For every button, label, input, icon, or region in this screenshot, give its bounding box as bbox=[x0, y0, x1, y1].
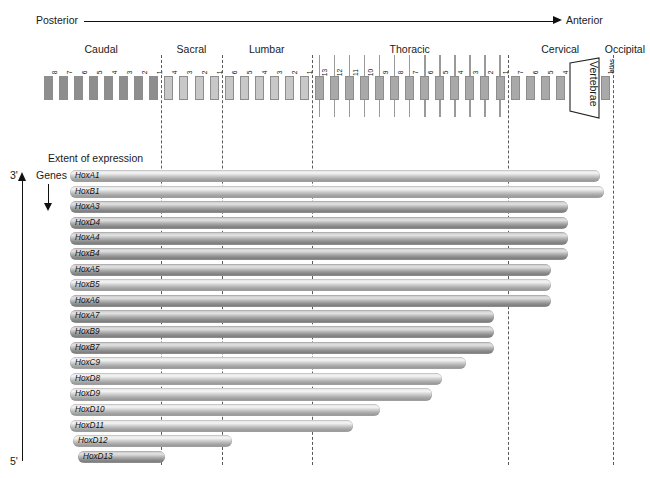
vertebra-box-thoracic-3: 3 bbox=[465, 76, 474, 100]
vertebra-number: 2 bbox=[486, 61, 495, 85]
vertebrae-bracket-label: Vertebrae bbox=[588, 61, 600, 107]
expression-bar-HoxC9 bbox=[70, 357, 466, 369]
vertebra-box-thoracic-6: 6 bbox=[420, 76, 429, 100]
extent-of-expression-label: Extent of expression bbox=[48, 152, 143, 164]
vertebra-box-sacral-3: 3 bbox=[179, 76, 188, 100]
gene-name-label: HoxA3 bbox=[75, 201, 100, 213]
vertebra-number: 9 bbox=[381, 61, 390, 85]
region-label-occipital: Occipital bbox=[576, 43, 650, 55]
gene-name-label: HoxD4 bbox=[75, 217, 100, 229]
vertebra-box-caudal-6: 6 bbox=[74, 76, 83, 100]
vertebra-number: 3 bbox=[275, 61, 284, 85]
vertebra-number: 5 bbox=[245, 61, 254, 85]
vertebra-box-cervical-5: 5 bbox=[541, 76, 550, 100]
expression-bar-HoxB1 bbox=[70, 186, 604, 198]
gene-name-label: HoxA7 bbox=[75, 310, 100, 322]
vertebra-number: 2 bbox=[200, 61, 209, 85]
vertebra-box-caudal-8: 8 bbox=[44, 76, 53, 100]
vertebra-box-caudal-3: 3 bbox=[119, 76, 128, 100]
expression-bar-HoxD11 bbox=[70, 420, 353, 432]
vertebra-number: 7 bbox=[516, 61, 525, 85]
gene-name-label: HoxC9 bbox=[75, 357, 100, 369]
vertebra-number: 1 bbox=[215, 61, 224, 85]
vertebra-number: 6 bbox=[80, 61, 89, 85]
vertebra-number: 12 bbox=[335, 61, 344, 85]
vertebra-box-lumbar-2: 2 bbox=[285, 76, 294, 100]
vertebra-box-lumbar-3: 3 bbox=[270, 76, 279, 100]
expression-bar-HoxB9 bbox=[70, 326, 494, 338]
vertebra-box-thoracic-4: 4 bbox=[450, 76, 459, 100]
vertebra-number: 7 bbox=[411, 61, 420, 85]
vertebra-box-caudal-1: 1 bbox=[149, 76, 158, 100]
gene-name-label: HoxD11 bbox=[75, 420, 104, 432]
expression-bar-HoxB7 bbox=[70, 342, 494, 354]
vertebra-box-thoracic-12: 12 bbox=[330, 76, 339, 100]
gene-name-label: HoxD10 bbox=[75, 404, 105, 416]
vertebra-box-thoracic-1: 1 bbox=[496, 76, 505, 100]
expression-bar-HoxD10 bbox=[70, 404, 380, 416]
vertebra-number: 11 bbox=[351, 61, 360, 85]
vertebra-number: 13 bbox=[320, 61, 329, 85]
vertebra-number: 3 bbox=[471, 61, 480, 85]
vertebra-number: 8 bbox=[396, 61, 405, 85]
vertebra-box-lumbar-1: 1 bbox=[300, 76, 309, 100]
anterior-label: Anterior bbox=[566, 14, 603, 26]
vertebra-box-caudal-5: 5 bbox=[89, 76, 98, 100]
gene-name-label: HoxD13 bbox=[83, 451, 113, 463]
vertebra-box-cervical-4: 4 bbox=[556, 76, 565, 100]
vertebra-box-caudal-4: 4 bbox=[104, 76, 113, 100]
expression-bar-HoxA1 bbox=[70, 170, 600, 182]
expression-bar-HoxD9 bbox=[70, 388, 432, 400]
vertebra-box-cervical-6: 6 bbox=[526, 76, 535, 100]
vertebra-number: 4 bbox=[170, 61, 179, 85]
gene-order-axis-line bbox=[22, 180, 23, 461]
gene-name-label: HoxA6 bbox=[75, 295, 100, 307]
vertebra-number: 1 bbox=[501, 61, 510, 85]
genes-direction-arrowhead-icon bbox=[44, 203, 52, 211]
posterior-label: Posterior bbox=[36, 14, 78, 26]
region-divider bbox=[613, 55, 614, 465]
expression-bar-HoxD4 bbox=[70, 217, 568, 229]
expression-bar-HoxA5 bbox=[70, 264, 551, 276]
gene-name-label: HoxD8 bbox=[75, 373, 100, 385]
vertebra-number: 1 bbox=[155, 61, 164, 85]
vertebra-number: 3 bbox=[125, 61, 134, 85]
vertebra-number: 6 bbox=[230, 61, 239, 85]
vertebra-number: 2 bbox=[140, 61, 149, 85]
gene-order-arrowhead-icon bbox=[18, 172, 26, 181]
expression-bar-HoxB4 bbox=[70, 248, 568, 260]
vertebra-number: 10 bbox=[366, 61, 375, 85]
vertebra-box-thoracic-9: 9 bbox=[375, 76, 384, 100]
vertebra-box-thoracic-2: 2 bbox=[480, 76, 489, 100]
vertebra-box-lumbar-4: 4 bbox=[255, 76, 264, 100]
vertebra-box-cervical-7: 7 bbox=[511, 76, 520, 100]
five-prime-label: 5' bbox=[10, 455, 18, 467]
vertebra-box-thoracic-7: 7 bbox=[405, 76, 414, 100]
vertebra-number: 6 bbox=[426, 61, 435, 85]
gene-name-label: HoxB1 bbox=[75, 186, 100, 198]
vertebra-number: 3 bbox=[185, 61, 194, 85]
vertebra-number: 8 bbox=[50, 61, 59, 85]
expression-bar-HoxA6 bbox=[70, 295, 551, 307]
gene-name-label: HoxA4 bbox=[75, 232, 100, 244]
vertebra-box-thoracic-5: 5 bbox=[435, 76, 444, 100]
vertebra-box-caudal-7: 7 bbox=[59, 76, 68, 100]
gene-name-label: HoxB4 bbox=[75, 248, 100, 260]
expression-bar-HoxA7 bbox=[70, 310, 494, 322]
vertebra-box-lumbar-5: 5 bbox=[240, 76, 249, 100]
vertebra-box-lumbar-6: 6 bbox=[225, 76, 234, 100]
vertebra-box-thoracic-8: 8 bbox=[390, 76, 399, 100]
vertebra-box-thoracic-11: 11 bbox=[345, 76, 354, 100]
gene-name-label: HoxB9 bbox=[75, 326, 100, 338]
expression-bar-HoxB5 bbox=[70, 279, 551, 291]
vertebra-number: 6 bbox=[531, 61, 540, 85]
vertebra-number: 5 bbox=[546, 61, 555, 85]
vertebra-number: 4 bbox=[110, 61, 119, 85]
vertebra-box-sacral-2: 2 bbox=[195, 76, 204, 100]
vertebra-box-sacral-1: 1 bbox=[210, 76, 219, 100]
vertebra-box-caudal-2: 2 bbox=[134, 76, 143, 100]
anteroposterior-axis-line bbox=[84, 21, 557, 22]
vertebra-number: 2 bbox=[290, 61, 299, 85]
vertebra-box-thoracic-13: 13 bbox=[315, 76, 324, 100]
